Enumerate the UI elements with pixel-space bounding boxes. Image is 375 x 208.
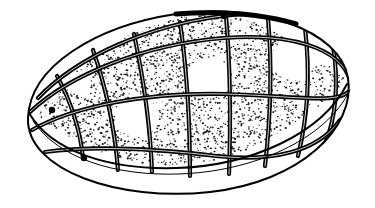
stipple-dot [314, 94, 315, 95]
stipple-dot [90, 141, 92, 143]
stipple-dot [252, 66, 254, 68]
stipple-dot [197, 138, 199, 140]
stipple-dot [276, 79, 278, 80]
stipple-dot [150, 80, 151, 81]
stipple-dot [242, 70, 243, 71]
stipple-dot [230, 47, 232, 49]
stipple-dot [165, 163, 167, 164]
stipple-dot [59, 102, 60, 103]
stipple-dot [276, 85, 277, 86]
stipple-dot [40, 112, 42, 113]
stipple-dot [165, 146, 167, 147]
stipple-dot [92, 76, 94, 78]
stipple-dot [255, 114, 256, 115]
stipple-dot [218, 118, 220, 120]
stipple-dot [238, 71, 240, 73]
stipple-dot [149, 62, 151, 63]
stipple-dot [199, 55, 201, 57]
stipple-dot [212, 105, 213, 106]
stipple-dot [273, 32, 275, 34]
stipple-dot [178, 91, 179, 92]
stipple-dot [247, 20, 248, 21]
stipple-dot [170, 59, 171, 60]
stipple-dot [129, 158, 131, 160]
stipple-dot [292, 105, 294, 106]
stipple-dot [224, 143, 225, 144]
stipple-dot [191, 33, 192, 34]
stipple-dot [282, 106, 284, 107]
stipple-dot [156, 139, 158, 141]
stipple-dot [194, 113, 195, 114]
stipple-dot [171, 155, 172, 156]
stipple-dot [156, 92, 157, 93]
stipple-dot [222, 126, 224, 127]
stipple-dot [240, 150, 242, 152]
stipple-dot [219, 108, 221, 110]
stipple-dot [62, 98, 63, 99]
stipple-dot [167, 54, 169, 56]
stipple-dot [194, 105, 196, 107]
stipple-dot [161, 113, 163, 115]
stipple-dot [166, 62, 167, 63]
stipple-dot [265, 63, 267, 64]
stipple-dot [167, 134, 169, 136]
stipple-dot [50, 123, 52, 125]
stipple-dot [234, 137, 235, 138]
stipple-dot [249, 143, 250, 144]
stipple-dot [171, 56, 173, 58]
stipple-dot [137, 75, 139, 76]
stipple-dot [260, 141, 262, 143]
stipple-dot [213, 98, 214, 99]
stipple-dot [252, 51, 253, 52]
stipple-dot [171, 69, 173, 70]
stipple-dot [169, 142, 171, 144]
stipple-dot [204, 36, 206, 37]
stipple-dot [154, 74, 155, 75]
stipple-dot [170, 53, 172, 54]
stipple-dot [159, 144, 160, 145]
stipple-dot [273, 129, 274, 130]
stipple-dot [171, 132, 173, 134]
stipple-dot [217, 138, 218, 139]
stipple-dot [193, 30, 195, 32]
stipple-dot [100, 115, 102, 116]
stipple-dot [162, 56, 163, 57]
stipple-dot [236, 136, 238, 138]
stipple-dot [278, 42, 279, 43]
stipple-dot [248, 68, 250, 70]
stipple-dot [167, 113, 168, 114]
stipple-dot [244, 77, 246, 79]
stipple-dot [292, 93, 293, 94]
stipple-dot [52, 102, 53, 103]
stipple-dot [191, 128, 193, 129]
stipple-dot [234, 141, 236, 143]
stipple-dot [249, 26, 251, 28]
stipple-dot [273, 79, 274, 80]
stipple-dot [316, 100, 317, 101]
stipple-dot [177, 102, 179, 104]
stipple-dot [255, 66, 256, 67]
stipple-dot [256, 30, 257, 31]
stipple-dot [224, 113, 225, 114]
stipple-dot [233, 90, 234, 91]
stipple-dot [54, 104, 56, 106]
stipple-dot [124, 48, 125, 49]
stipple-dot [99, 82, 100, 83]
stipple-dot [123, 81, 124, 82]
stipple-dot [315, 70, 317, 71]
stipple-dot [317, 105, 319, 106]
stipple-dot [168, 102, 169, 103]
stipple-dot [234, 128, 235, 129]
stipple-dot [235, 50, 237, 52]
stipple-dot [261, 129, 262, 130]
stipple-dot [321, 85, 323, 86]
stipple-dot [280, 106, 281, 107]
stipple-dot [233, 46, 235, 47]
stipple-dot [207, 138, 209, 140]
stipple-dot [134, 74, 136, 76]
stipple-dot [195, 57, 196, 58]
stipple-dot [191, 100, 193, 101]
stipple-dot [330, 85, 332, 87]
stipple-dot [230, 26, 231, 27]
stipple-dot [179, 119, 181, 121]
